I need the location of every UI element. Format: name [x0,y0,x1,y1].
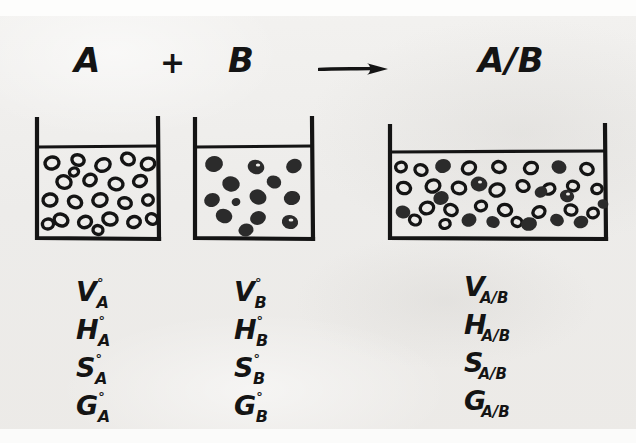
property-volume-b: V°B [234,272,275,302]
paper-top-edge [0,0,636,16]
subscript-label: A/B [482,327,511,345]
property-enthalpy-ab: HA/B [464,310,515,340]
property-volume-ab: VA/B [464,272,515,302]
property-gibbs-a: G°A [76,386,118,416]
property-column-ab: VA/B HA/B SA/B GA/B [464,272,515,416]
property-entropy-a: S°A [76,348,118,378]
equation-plus-sign: + [160,48,185,78]
property-entropy-ab: SA/B [464,348,515,378]
property-gibbs-ab: GA/B [464,386,515,416]
property-entropy-b: S°B [234,348,275,378]
paper-bottom-edge [0,429,636,443]
beaker-a [28,112,168,248]
equation-product-ab: A/B [478,43,544,77]
property-column-b: V°B H°B S°B G°B [234,272,275,416]
subscript-label: A/B [478,365,507,383]
beaker-b [186,112,322,248]
subscript-label: A/B [480,289,509,307]
degree-superscript: ° [256,389,263,404]
property-gibbs-b: G°B [234,386,275,416]
degree-superscript: ° [97,275,104,290]
arrow-right-icon [318,61,392,75]
property-volume-a: V°A [76,272,118,302]
degree-superscript: ° [253,351,260,366]
degree-superscript: ° [255,275,262,290]
property-enthalpy-a: H°A [76,310,118,340]
property-column-a: V°A H°A S°A G°A [76,272,118,416]
property-enthalpy-b: H°B [234,310,275,340]
equation-reactant-a: A [74,43,101,77]
subscript-label: A/B [481,403,510,421]
degree-superscript: ° [98,389,105,404]
degree-superscript: ° [257,313,264,328]
figure-canvas: A + B A/B [0,0,636,443]
equation-reactant-b: B [228,43,254,77]
beaker-ab [381,120,615,248]
degree-superscript: ° [99,313,106,328]
subscript-label: A [98,407,110,426]
subscript-label: B [256,407,268,426]
degree-superscript: ° [95,351,102,366]
